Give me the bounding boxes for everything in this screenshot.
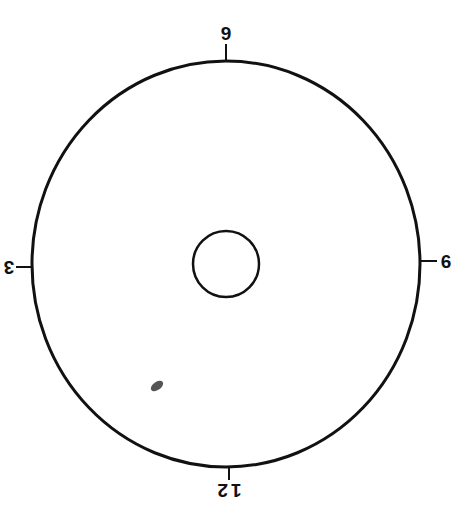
outer-circle <box>32 61 420 467</box>
label-right: 6 <box>441 251 452 272</box>
label-left: 3 <box>4 257 15 278</box>
mark-spot <box>149 379 165 394</box>
inner-circle <box>193 231 259 297</box>
label-bottom: 12 <box>214 480 241 501</box>
label-top: 9 <box>221 23 232 44</box>
clock-face-diagram: 9 12 3 6 <box>0 0 472 528</box>
